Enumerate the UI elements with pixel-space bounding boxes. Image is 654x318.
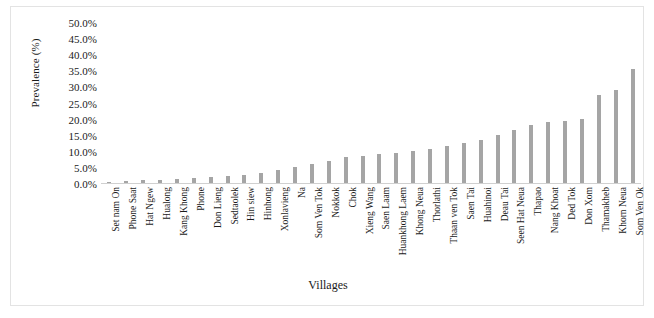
x-tick-slot: Hinhong — [253, 187, 270, 273]
bar-slot — [455, 23, 472, 183]
bar-slot — [388, 23, 405, 183]
bar — [293, 167, 297, 183]
y-axis-tick: 40.0% — [49, 50, 97, 60]
bar-slot — [557, 23, 574, 183]
bar-slot — [405, 23, 422, 183]
y-axis-tick: 10.0% — [49, 147, 97, 157]
x-axis-line — [101, 183, 641, 184]
bar-slot — [337, 23, 354, 183]
bar — [546, 122, 550, 183]
x-tick-slot: Huahinoi — [472, 187, 489, 273]
bar-slot — [118, 23, 135, 183]
y-axis-tick: 30.0% — [49, 82, 97, 92]
bar — [479, 140, 483, 183]
bar — [327, 161, 331, 183]
y-axis-title: Prevalence (%) — [29, 3, 41, 143]
bar-slot — [523, 23, 540, 183]
bar-slot — [219, 23, 236, 183]
x-tick-slot: Saen Laam — [371, 187, 388, 273]
x-tick-slot: Nokkok — [320, 187, 337, 273]
bar — [512, 130, 516, 183]
bar-slot — [624, 23, 641, 183]
bar — [462, 143, 466, 183]
x-tick-slot: Hat Ngew — [135, 187, 152, 273]
bar-slot — [489, 23, 506, 183]
bar — [428, 149, 432, 183]
x-tick-slot: Chok — [337, 187, 354, 273]
x-tick-slot: Huankhong Laem — [388, 187, 405, 273]
x-tick-slot: Sedtaolek — [219, 187, 236, 273]
x-tick-slot: Som Ven Tok — [304, 187, 321, 273]
x-tick-slot: Deau Tai — [489, 187, 506, 273]
y-axis-tick: 35.0% — [49, 66, 97, 76]
x-tick-slot: Hualong — [152, 187, 169, 273]
bar — [411, 151, 415, 183]
x-tick-slot: Khong Neua — [405, 187, 422, 273]
bar — [445, 146, 449, 183]
bar-slot — [152, 23, 169, 183]
x-tick-slot: Som Ven Ok — [624, 187, 641, 273]
bar — [597, 95, 601, 183]
x-axis-tick-labels: Set nam OnPhone SaatHat NgewHualongKang … — [101, 187, 641, 273]
bar — [631, 69, 635, 183]
x-tick-slot: Ded Tok — [557, 187, 574, 273]
bar — [496, 135, 500, 183]
bar — [563, 121, 567, 183]
bar — [226, 176, 230, 183]
bar-slot — [354, 23, 371, 183]
y-axis-tick: 15.0% — [49, 131, 97, 141]
bar-slot — [185, 23, 202, 183]
x-tick-slot: Hin siew — [236, 187, 253, 273]
x-tick-slot: Thaan ven Tok — [439, 187, 456, 273]
x-tick-slot: Xieng Wang — [354, 187, 371, 273]
x-axis-title: Villages — [11, 278, 645, 293]
y-axis-tick: 50.0% — [49, 18, 97, 28]
bar-slot — [253, 23, 270, 183]
y-axis-tick: 0.0% — [49, 179, 97, 189]
bar-series — [101, 23, 641, 183]
bar-slot — [590, 23, 607, 183]
bar-slot — [439, 23, 456, 183]
bar-slot — [304, 23, 321, 183]
x-tick-slot: Thorlathi — [422, 187, 439, 273]
y-axis-tick: 5.0% — [49, 163, 97, 173]
bar — [614, 90, 618, 183]
bar — [529, 125, 533, 183]
x-tick-slot: Xonlavieng — [270, 187, 287, 273]
bar-slot — [422, 23, 439, 183]
bar-slot — [270, 23, 287, 183]
bar — [377, 154, 381, 183]
bar-slot — [202, 23, 219, 183]
y-axis-tick: 45.0% — [49, 34, 97, 44]
bar — [242, 175, 246, 183]
x-tick-slot: Set nam On — [101, 187, 118, 273]
y-axis-tick: 25.0% — [49, 99, 97, 109]
x-tick-slot: Thamakheb — [590, 187, 607, 273]
x-tick-slot: Khorn Neua — [607, 187, 624, 273]
bar-slot — [287, 23, 304, 183]
bar-slot — [236, 23, 253, 183]
x-tick-slot: Kang Khong — [169, 187, 186, 273]
bar-slot — [607, 23, 624, 183]
x-tick-slot: Nang Khoat — [540, 187, 557, 273]
bar — [361, 156, 365, 183]
x-tick-slot: Don Lieng — [202, 187, 219, 273]
x-axis-tick: Som Ven Ok — [636, 187, 645, 235]
bar — [344, 157, 348, 183]
bar-slot — [320, 23, 337, 183]
x-tick-slot: Phone — [185, 187, 202, 273]
bar — [310, 164, 314, 183]
bar-slot — [472, 23, 489, 183]
bar — [394, 153, 398, 183]
y-axis-tick-labels: 0.0%5.0%10.0%15.0%20.0%25.0%30.0%35.0%40… — [49, 17, 97, 189]
bar-slot — [506, 23, 523, 183]
bar-slot — [540, 23, 557, 183]
bar — [276, 170, 280, 183]
x-tick-slot: Thapao — [523, 187, 540, 273]
x-tick-slot: Saen Tai — [455, 187, 472, 273]
bar-slot — [574, 23, 591, 183]
bar-slot — [135, 23, 152, 183]
x-tick-slot: Don Xom — [574, 187, 591, 273]
plot-area — [101, 23, 641, 184]
x-tick-slot: Na — [287, 187, 304, 273]
